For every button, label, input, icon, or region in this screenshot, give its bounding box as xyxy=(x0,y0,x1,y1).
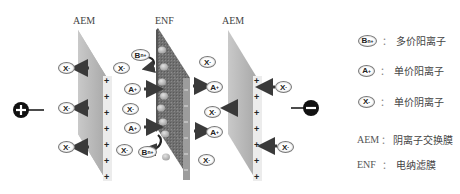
cathode-electrode xyxy=(291,100,319,116)
legend-item-monovalent-cation: A+ ： 单价阳离子 xyxy=(358,63,444,78)
legend-label: 单价阴离子 xyxy=(394,94,444,109)
svg-text:+: + xyxy=(254,92,259,102)
ion-monovalent-anion: X- xyxy=(58,141,75,153)
legend-item-enf: ENF ： 电纳滤膜 xyxy=(357,157,436,172)
left-aem-label: AEM xyxy=(73,15,95,26)
svg-text:+: + xyxy=(254,124,259,134)
ion-monovalent-cation: A+ xyxy=(124,122,141,134)
legend-item-multivalent-cation: Bn+ ： 多价阳离子 xyxy=(358,33,446,48)
ion-monovalent-anion: X- xyxy=(199,56,216,68)
right-aem-membrane: +++ +++ + xyxy=(228,30,262,182)
legend-ion-icon: X- xyxy=(358,96,375,108)
ion-monovalent-cation: A+ xyxy=(206,126,223,138)
legend-ion-icon: A+ xyxy=(358,65,375,77)
legend-item-aem: AEM ： 阴离子交换膜 xyxy=(357,132,453,147)
ion-monovalent-anion: X- xyxy=(275,81,292,93)
left-aem-membrane: +++ +++ + xyxy=(78,30,112,182)
anode-electrode xyxy=(13,102,44,118)
legend-label: 多价阳离子 xyxy=(396,33,446,48)
legend-ion-icon: Bn+ xyxy=(358,35,377,47)
ion-monovalent-anion: X- xyxy=(277,141,294,153)
ion-monovalent-anion: X- xyxy=(58,62,75,74)
legend-item-monovalent-anion: X- ： 单价阴离子 xyxy=(358,94,444,109)
ion-monovalent-cation: A+ xyxy=(124,83,141,95)
ion-monovalent-anion: X- xyxy=(204,106,221,118)
enf-membrane xyxy=(156,28,190,180)
right-aem-label: AEM xyxy=(222,15,244,26)
ion-monovalent-anion: X- xyxy=(113,62,130,74)
legend-label: 电纳滤膜 xyxy=(396,157,436,172)
svg-text:+: + xyxy=(254,156,259,166)
svg-text:+: + xyxy=(104,92,109,102)
ion-monovalent-anion: X- xyxy=(58,102,75,114)
svg-text:+: + xyxy=(104,172,109,182)
svg-text:+: + xyxy=(104,156,109,166)
ion-separation-diagram: +++ +++ + xyxy=(0,0,460,194)
ion-monovalent-anion: X- xyxy=(122,103,139,115)
enf-label: ENF xyxy=(155,15,174,26)
ion-multivalent-cation: Bn+ xyxy=(131,49,150,61)
svg-text:+: + xyxy=(104,108,109,118)
svg-text:+: + xyxy=(104,124,109,134)
svg-text:+: + xyxy=(254,140,259,150)
svg-text:+: + xyxy=(254,172,259,182)
ion-multivalent-cation: Bn+ xyxy=(138,146,157,158)
svg-text:+: + xyxy=(104,140,109,150)
legend-label: 阴离子交换膜 xyxy=(393,132,453,147)
ion-monovalent-anion: X- xyxy=(198,154,215,166)
svg-text:+: + xyxy=(254,108,259,118)
svg-text:+: + xyxy=(254,76,259,86)
legend-label: 单价阳离子 xyxy=(394,63,444,78)
ion-monovalent-anion: X- xyxy=(116,144,133,156)
svg-text:+: + xyxy=(104,76,109,86)
ion-monovalent-cation: A+ xyxy=(206,81,223,93)
